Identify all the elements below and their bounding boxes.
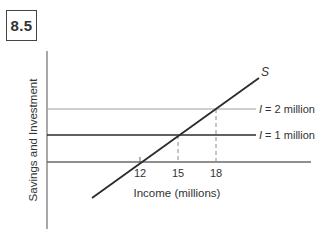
y-axis-label: Savings and Investment <box>27 78 39 202</box>
investment-label-2m: I = 2 million <box>259 103 315 115</box>
savings-investment-chart: S I = 2 million I = 1 million 12 15 18 I… <box>0 0 327 232</box>
savings-curve <box>92 78 259 198</box>
investment-value: = 1 million <box>262 129 315 141</box>
savings-curve-label: S <box>261 65 269 79</box>
investment-value: = 2 million <box>262 103 315 115</box>
investment-label-1m: I = 1 million <box>259 129 315 141</box>
x-tick-18: 18 <box>210 167 222 179</box>
x-tick-12: 12 <box>134 167 146 179</box>
x-axis-label: Income (millions) <box>134 187 221 199</box>
x-tick-15: 15 <box>172 167 184 179</box>
